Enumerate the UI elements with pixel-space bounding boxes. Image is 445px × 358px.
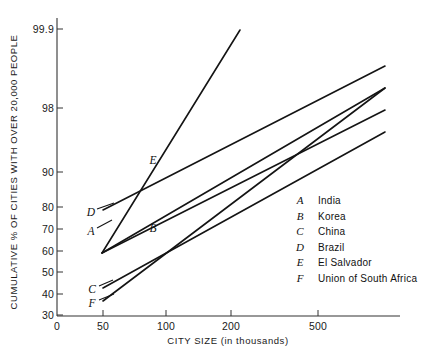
legend-key-f: F [296, 272, 304, 284]
y-tick-label: 80 [42, 201, 54, 213]
x-tick-label: 500 [309, 320, 327, 332]
series-line-e [102, 30, 240, 253]
series-tag-e: E [148, 154, 156, 166]
axes-group [57, 18, 400, 316]
series-tag-f: F [87, 297, 96, 309]
legend-name-b: Korea [318, 211, 346, 222]
axis-origin-label: 0 [54, 320, 60, 332]
legend-name-c: China [318, 226, 346, 237]
legend-key-c: C [296, 225, 304, 237]
x-tick-label: 100 [157, 320, 175, 332]
x-axis-ticks: 50100200500 [97, 310, 327, 332]
y-tick-label: 98 [42, 102, 54, 114]
legend-key-a: A [296, 194, 304, 206]
y-tick-label: 90 [42, 166, 54, 178]
y-axis-title: CUMULATIVE % OF CITIES WITH OVER 20,000 … [8, 35, 19, 310]
y-tick-label: 70 [42, 223, 54, 235]
chart-legend: AIndiaBKoreaCChinaDBrazilEEl SalvadorFUn… [295, 194, 417, 284]
legend-key-e: E [296, 256, 304, 268]
legend-name-d: Brazil [318, 242, 345, 253]
series-line-d [103, 66, 385, 210]
series-tag-d: D [86, 206, 96, 218]
series-leader-a [97, 220, 112, 228]
chart-container: 99.99890807060504030 50100200500 CUMULAT… [0, 0, 445, 358]
y-tick-label: 30 [42, 309, 54, 321]
y-tick-label: 40 [42, 288, 54, 300]
series-tag-b: B [149, 222, 156, 234]
line-chart-plot: 99.99890807060504030 50100200500 CUMULAT… [0, 0, 445, 358]
series-tag-c: C [88, 283, 96, 295]
y-tick-label: 99.9 [33, 23, 54, 35]
legend-key-d: D [295, 241, 304, 253]
series-line-f [103, 88, 385, 301]
x-tick-label: 50 [97, 320, 109, 332]
legend-name-f: Union of South Africa [318, 273, 417, 284]
x-axis-title: CITY SIZE (in thousands) [167, 335, 288, 346]
series-tag-a: A [86, 225, 95, 237]
y-tick-label: 60 [42, 245, 54, 257]
y-tick-label: 50 [42, 266, 54, 278]
legend-name-a: India [318, 195, 341, 206]
legend-key-b: B [297, 210, 304, 222]
x-tick-label: 200 [222, 320, 240, 332]
legend-name-e: El Salvador [318, 257, 372, 268]
y-axis-ticks: 99.99890807060504030 [33, 23, 63, 321]
